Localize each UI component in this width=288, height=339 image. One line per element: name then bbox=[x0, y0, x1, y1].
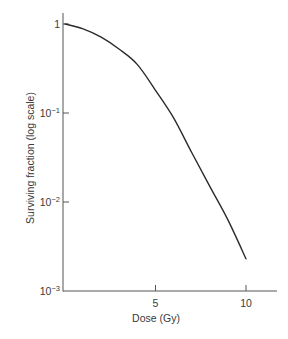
y-axis-title: Surviving fraction (log scale) bbox=[24, 92, 36, 224]
x-tick-label: 5 bbox=[153, 297, 159, 309]
axes bbox=[63, 13, 277, 292]
y-tick-label: 10−1 bbox=[40, 106, 60, 119]
y-ticks: 110−110−210−3 bbox=[40, 18, 69, 297]
y-tick-label: 1 bbox=[54, 18, 60, 30]
x-axis-title: Dose (Gy) bbox=[132, 312, 180, 324]
survival-curve-chart: 110−110−210−3 510 Dose (Gy) Surviving fr… bbox=[0, 0, 288, 339]
y-tick-label: 10−3 bbox=[40, 284, 60, 297]
x-tick-label: 10 bbox=[240, 297, 252, 309]
y-tick-label: 10−2 bbox=[40, 195, 60, 208]
x-ticks: 510 bbox=[153, 285, 252, 309]
survival-curve-line bbox=[65, 24, 246, 259]
